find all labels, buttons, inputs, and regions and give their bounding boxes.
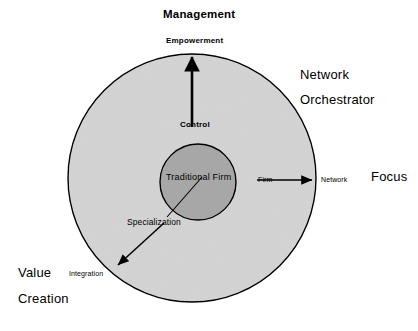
label-traditional-firm: Traditional Firm [166,173,231,182]
label-network-orchestrator-line1: Network [300,68,349,81]
label-focus: Focus [371,170,407,183]
label-integration: Integration [69,270,103,277]
label-network-orchestrator-line2: Orchestrator [300,93,375,106]
label-specialization: Specialization [127,218,181,227]
label-network-end: Network [321,176,347,183]
label-value-creation-line2: Creation [18,292,69,305]
label-firm: Firm [258,176,272,183]
label-control: Control [180,121,210,129]
diagram-canvas: Management Empowerment Control Tradition… [0,0,418,331]
diagram-title: Management [163,9,235,21]
label-empowerment: Empowerment [166,37,223,45]
diagram-graphics [0,0,418,331]
label-value-creation-line1: Value [18,266,51,279]
